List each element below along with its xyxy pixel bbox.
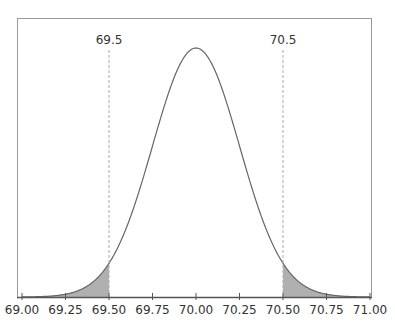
x-tick-label: 70.50 — [266, 303, 300, 317]
reference-line-label: 69.5 — [96, 33, 123, 47]
x-tick-label: 70.25 — [222, 303, 256, 317]
normal-distribution-chart: 69.570.5 69.0069.2569.5069.7570.0070.257… — [0, 0, 395, 329]
x-tick-label: 69.00 — [5, 303, 39, 317]
plot-frame — [18, 19, 372, 298]
reference-lines: 69.570.5 — [96, 33, 297, 297]
right-tail-shade — [283, 263, 370, 297]
density-curve — [22, 48, 370, 297]
x-tick-label: 69.25 — [48, 303, 82, 317]
x-tick-label: 70.75 — [309, 303, 343, 317]
reference-line-label: 70.5 — [270, 33, 297, 47]
x-tick-label: 69.75 — [135, 303, 169, 317]
x-tick-label: 71.00 — [353, 303, 387, 317]
left-tail-shade — [22, 263, 109, 297]
x-tick-label: 70.00 — [179, 303, 213, 317]
x-tick-label: 69.50 — [92, 303, 126, 317]
